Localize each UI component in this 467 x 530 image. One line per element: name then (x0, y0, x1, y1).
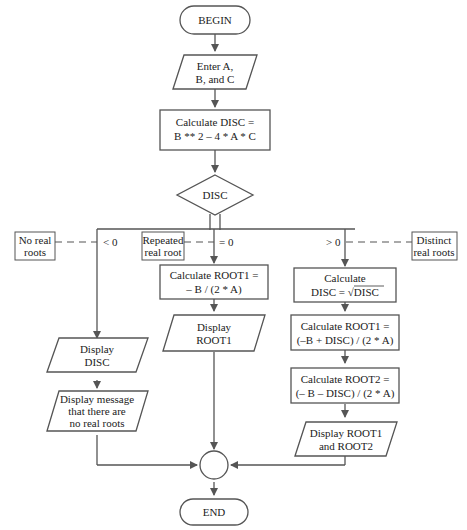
begin-terminal[interactable]: BEGIN (180, 6, 250, 34)
input-line-2: B, and C (196, 73, 235, 85)
svg-text:Repeated: Repeated (143, 234, 184, 246)
disc-decision[interactable]: DISC (177, 175, 253, 215)
svg-text:Display ROOT1: Display ROOT1 (310, 427, 382, 439)
end-terminal[interactable]: END (180, 499, 248, 525)
display-disc-parallelogram[interactable]: Display DISC (47, 338, 148, 372)
calc-root1-process[interactable]: Calculate ROOT1 = (–B + DISC) / (2 * A) (291, 315, 399, 350)
svg-text:that there are: that there are (68, 405, 126, 417)
svg-text:Display: Display (80, 343, 115, 355)
svg-text:DISC: DISC (84, 356, 109, 368)
junction-connector[interactable] (200, 451, 228, 479)
calc-sqrt-process[interactable]: Calculate DISC = √DISC (294, 268, 396, 302)
branch-label-positive: > 0 (326, 236, 341, 248)
calc-disc-process[interactable]: Calculate DISC = B ** 2 – 4 * A * C (160, 110, 270, 150)
annotation-no-real-roots: No real roots (15, 232, 55, 260)
svg-text:ROOT1: ROOT1 (196, 334, 231, 346)
svg-text:Calculate ROOT1 =: Calculate ROOT1 = (170, 269, 259, 281)
input-parallelogram[interactable]: Enter A, B, and C (173, 55, 257, 89)
calc-disc-line-2: B ** 2 – 4 * A * C (174, 130, 256, 142)
end-label: END (203, 506, 226, 518)
calc-root1-repeated-process[interactable]: Calculate ROOT1 = – B / (2 * A) (160, 265, 268, 299)
decision-label: DISC (202, 189, 227, 201)
calc-disc-line-1: Calculate DISC = (176, 116, 254, 128)
svg-text:Calculate ROOT2 =: Calculate ROOT2 = (301, 373, 390, 385)
svg-text:roots: roots (24, 246, 46, 258)
svg-text:(– B – DISC) / (2 * A): (– B – DISC) / (2 * A) (296, 387, 395, 400)
branch-label-negative: < 0 (103, 236, 118, 248)
branch-label-zero: = 0 (219, 236, 234, 248)
calc-root2-process[interactable]: Calculate ROOT2 = (– B – DISC) / (2 * A) (291, 368, 399, 403)
flowchart-canvas: BEGIN Enter A, B, and C Calculate DISC =… (0, 0, 467, 530)
svg-text:Calculate: Calculate (324, 272, 366, 284)
svg-text:Display message: Display message (60, 393, 134, 405)
svg-text:No real: No real (19, 234, 52, 246)
display-message-parallelogram[interactable]: Display message that there are no real r… (47, 391, 148, 431)
begin-label: BEGIN (198, 14, 232, 26)
input-line-1: Enter A, (197, 60, 234, 72)
svg-text:– B / (2 * A): – B / (2 * A) (185, 283, 242, 296)
display-root1-parallelogram[interactable]: Display ROOT1 (163, 315, 265, 351)
svg-text:real root: real root (145, 246, 182, 258)
annotation-repeated-root: Repeated real root (142, 232, 184, 260)
svg-text:and ROOT2: and ROOT2 (319, 440, 373, 452)
svg-text:Distinct: Distinct (417, 234, 452, 246)
svg-text:(–B + DISC) / (2 * A): (–B + DISC) / (2 * A) (297, 334, 394, 347)
svg-text:Display: Display (197, 321, 232, 333)
svg-text:real roots: real roots (413, 246, 454, 258)
annotation-distinct-roots: Distinct real roots (412, 232, 457, 260)
svg-text:DISC = √DISC: DISC = √DISC (311, 286, 379, 298)
svg-text:Calculate ROOT1 =: Calculate ROOT1 = (301, 320, 390, 332)
display-roots-parallelogram[interactable]: Display ROOT1 and ROOT2 (295, 422, 397, 456)
svg-text:no real roots: no real roots (70, 417, 125, 429)
